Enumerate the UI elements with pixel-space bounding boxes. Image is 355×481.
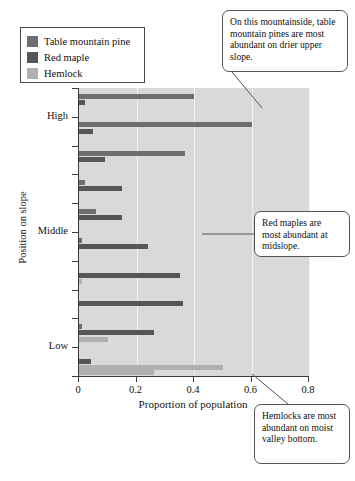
y-tick	[72, 376, 78, 377]
bar-group	[79, 318, 309, 347]
legend-item-pine: Table mountain pine	[27, 33, 138, 49]
bar-maple	[79, 215, 122, 220]
bar-maple	[79, 359, 91, 364]
y-tick	[72, 146, 78, 147]
bar-maple	[79, 273, 180, 278]
bar-group	[79, 174, 309, 203]
bar-maple	[79, 186, 122, 191]
legend-swatch-maple	[27, 52, 38, 63]
legend-label-pine: Table mountain pine	[44, 36, 130, 47]
y-tick	[72, 174, 78, 175]
bar-pine	[79, 94, 194, 99]
y-tick	[72, 232, 78, 233]
y-tick	[72, 117, 78, 118]
x-tick-0.2	[136, 377, 137, 382]
y-tick	[72, 261, 78, 262]
bar-maple	[79, 100, 85, 105]
bar-maple	[79, 301, 183, 306]
legend-label-maple: Red maple	[44, 52, 89, 63]
bar-pine	[79, 180, 85, 185]
x-tick-label: 0.8	[293, 384, 323, 395]
legend-label-hemlock: Hemlock	[44, 68, 83, 79]
y-tick	[72, 203, 78, 204]
bar-group-hemlock-tail	[79, 369, 309, 376]
y-tick-label-middle: Middle	[22, 225, 68, 236]
bar-group	[79, 290, 309, 319]
x-tick-label: 0.2	[121, 384, 151, 395]
bar-maple	[79, 157, 105, 162]
bar-maple	[79, 330, 154, 335]
y-tick-label-high: High	[22, 110, 68, 121]
bar-pine	[79, 238, 82, 243]
bar-group	[79, 88, 309, 117]
callout-pine: On this mountainside, table mountain pin…	[222, 10, 348, 72]
bar-group	[79, 117, 309, 146]
x-tick-0.8	[308, 377, 309, 382]
y-tick	[72, 88, 78, 89]
x-tick-label: 0.6	[236, 384, 266, 395]
y-tick	[72, 318, 78, 319]
bar-hemlock	[79, 370, 154, 375]
legend: Table mountain pine Red maple Hemlock	[20, 27, 145, 83]
legend-swatch-pine	[27, 36, 38, 47]
bar-hemlock	[79, 279, 82, 284]
bar-maple	[79, 244, 148, 249]
chart-figure: Table mountain pine Red maple Hemlock 00…	[0, 0, 355, 481]
bar-pine	[79, 151, 185, 156]
bar-group	[79, 146, 309, 175]
legend-item-maple: Red maple	[27, 49, 138, 65]
x-tick-0.6	[251, 377, 252, 382]
bar-pine	[79, 324, 82, 329]
bar-pine	[79, 122, 252, 127]
legend-item-hemlock: Hemlock	[27, 65, 138, 81]
bar-pine	[79, 209, 96, 214]
callout-maple: Red maples are most abundant at midslope…	[254, 211, 350, 257]
bar-group	[79, 261, 309, 290]
x-tick-0.4	[193, 377, 194, 382]
bar-maple	[79, 129, 93, 134]
y-tick-label-low: Low	[22, 340, 68, 351]
x-tick-0	[78, 377, 79, 382]
callout-hemlock: Hemlocks are most abundant on moist vall…	[254, 404, 350, 464]
x-tick-label: 0	[63, 384, 93, 395]
bar-hemlock	[79, 337, 108, 342]
y-tick	[72, 290, 78, 291]
y-axis-title: Position on slope	[17, 168, 28, 288]
x-tick-label: 0.4	[178, 384, 208, 395]
y-tick	[72, 347, 78, 348]
legend-swatch-hemlock	[27, 68, 38, 79]
